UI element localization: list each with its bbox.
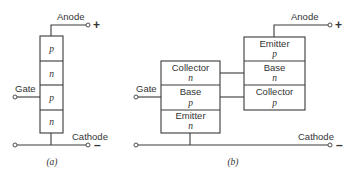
gate-terminal-a [13,95,17,99]
npn-base-label: Base [180,86,202,97]
left-terminal-b [134,143,138,147]
cathode-terminal-b [328,143,332,147]
gate-label-b: Gate [136,83,157,94]
cathode-label-b: Cathode [298,131,334,142]
layer-4-type: n [49,117,54,127]
npn-emitter-type: n [188,121,193,131]
anode-sign-a: + [93,18,100,32]
caption-a: (a) [46,157,57,168]
layer-2-type: n [49,69,54,79]
pnp-base-type: n [272,73,277,83]
gate-label-a: Gate [15,83,36,94]
layer-1-type: p [48,44,54,54]
anode-terminal-b [328,23,332,27]
cathode-sign-a: – [94,138,101,152]
npn-base-type: p [187,98,193,108]
cathode-sign-b: – [336,138,343,152]
npn-collector-label: Collector [172,62,210,73]
anode-terminal-a [86,23,90,27]
thyristor-diagram: Anode + p n p n Gate Cathode – (a) Colle… [0,0,353,177]
anode-sign-b: + [335,18,342,32]
pnp-base-label: Base [264,62,286,73]
cathode-label-a: Cathode [72,131,108,142]
pnp-collector-type: p [271,98,277,108]
pnp-collector-label: Collector [256,86,294,97]
diagram-a: Anode + p n p n Gate Cathode – (a) [13,11,108,168]
npn-collector-type: n [188,73,193,83]
npn-emitter-label: Emitter [175,110,205,121]
diagram-b: Collector n Base p Emitter n Emitter p B… [134,11,343,168]
pnp-emitter-label: Emitter [259,38,289,49]
gate-terminal-b [134,95,138,99]
anode-label-b: Anode [291,11,318,22]
anode-label-a: Anode [57,11,84,22]
caption-b: (b) [227,157,238,168]
layer-3-type: p [48,93,54,103]
pnp-emitter-type: p [271,49,277,59]
anode-wire-b [274,25,328,37]
cathode-terminal-a [86,143,90,147]
left-terminal-a [13,143,17,147]
anode-wire-a [51,25,86,36]
